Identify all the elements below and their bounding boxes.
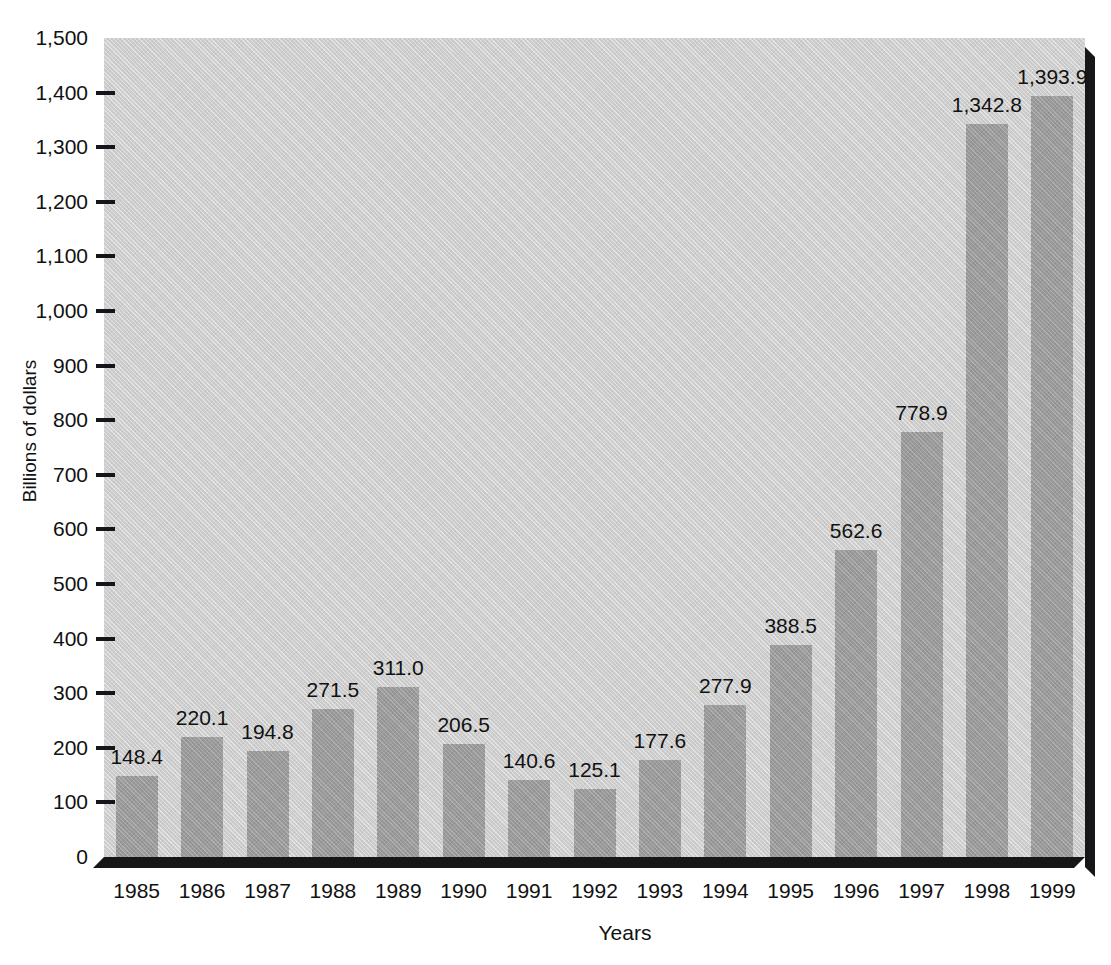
y-tick-mark [96,309,115,313]
y-tick-mark [96,91,115,95]
y-tick-mark [96,800,115,804]
y-axis-title: Billions of dollars [19,321,41,541]
bar-value-label: 271.5 [278,678,388,702]
bar-value-label: 148.4 [82,745,192,769]
bar [835,550,877,857]
y-tick-mark [96,200,115,204]
y-tick-label: 600 [53,514,88,543]
bar [247,751,289,857]
y-tick-label: 1,200 [35,187,88,216]
y-tick-label: 100 [53,787,88,816]
bar-value-label: 125.1 [540,758,650,782]
y-tick-mark [96,473,115,477]
y-tick-label: 900 [53,351,88,380]
bar-value-label: 177.6 [605,729,715,753]
bar-value-label: 194.8 [213,720,323,744]
y-tick-label: 700 [53,460,88,489]
bar-value-label: 388.5 [736,614,846,638]
bar [181,737,223,857]
y-tick-label: 1,500 [35,23,88,52]
bar [508,780,550,857]
bar-value-label: 311.0 [343,656,453,680]
bar [704,705,746,857]
bar-value-label: 1,393.9 [997,65,1107,89]
y-tick-label: 400 [53,624,88,653]
y-tick-mark [96,145,115,149]
y-tick-mark [96,691,115,695]
bar [966,124,1008,857]
y-tick-label: 800 [53,405,88,434]
y-tick-mark [96,637,115,641]
bar-value-label: 1,342.8 [932,93,1042,117]
bar-value-label: 277.9 [670,674,780,698]
y-tick-label: 500 [53,569,88,598]
bar [770,645,812,857]
y-tick-label: 1,100 [35,241,88,270]
plot-bottom-shadow [93,857,1085,868]
bar [901,432,943,857]
bar [1031,96,1073,857]
y-tick-label: 1,000 [35,296,88,325]
y-tick-label: 1,400 [35,78,88,107]
bar [116,776,158,857]
y-tick-mark [96,254,115,258]
bar [312,709,354,857]
x-tick-label: 1999 [1012,879,1092,903]
x-axis-title: Years [525,921,725,945]
y-tick-mark [96,527,115,531]
bar-value-label: 206.5 [409,713,519,737]
bar [574,789,616,857]
bar-value-label: 778.9 [867,401,977,425]
bar-value-label: 562.6 [801,519,911,543]
y-tick-mark [96,418,115,422]
y-tick-label: 300 [53,678,88,707]
bar [639,760,681,857]
y-tick-mark [96,582,115,586]
y-tick-label: 0 [76,842,88,871]
plot-right-shadow [1085,47,1095,877]
y-tick-mark [96,364,115,368]
bar-chart-figure: Billions of dollars 01002003004005006007… [0,0,1111,965]
y-tick-label: 1,300 [35,132,88,161]
